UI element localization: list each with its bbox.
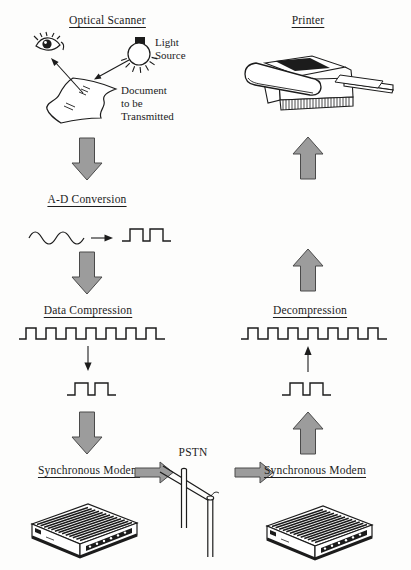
synchronous-modem-right-label: Synchronous Modem xyxy=(255,463,375,477)
fax-transmission-diagram: Optical Scanner Light Source Docu xyxy=(0,0,411,570)
square-wave-icon xyxy=(121,226,172,243)
light-beam-arrow-icon xyxy=(94,60,129,80)
block-arrow-down-icon xyxy=(71,137,103,181)
telephone-pole-icon xyxy=(155,460,235,565)
ad-conversion-label: A-D Conversion xyxy=(27,192,147,206)
decompression-label: Decompression xyxy=(250,303,370,317)
printer-icon xyxy=(243,50,398,114)
block-arrow-up-icon xyxy=(292,411,324,455)
light-source-label: Light Source xyxy=(155,36,199,62)
block-arrow-down-icon xyxy=(71,411,103,455)
block-arrow-down-icon xyxy=(71,251,103,295)
pstn-label: PSTN xyxy=(163,445,223,459)
data-compression-label: Data Compression xyxy=(28,303,148,317)
square-wave-long-icon xyxy=(18,325,166,341)
document-icon xyxy=(47,78,116,123)
synchronous-modem-left-label: Synchronous Modem xyxy=(29,463,149,477)
block-arrow-up-icon xyxy=(292,136,324,180)
square-wave-icon xyxy=(66,380,117,397)
sine-wave-icon xyxy=(27,225,85,251)
thin-down-arrow-icon xyxy=(82,345,94,372)
modem-icon xyxy=(259,499,381,563)
square-wave-long-icon xyxy=(240,325,388,341)
light-bulb-icon xyxy=(121,37,157,73)
modem-icon xyxy=(24,497,146,561)
printer-label: Printer xyxy=(248,13,368,27)
square-wave-icon xyxy=(281,380,332,397)
thin-right-arrow-icon xyxy=(90,232,114,244)
thin-up-arrow-icon xyxy=(302,345,314,373)
block-arrow-up-icon xyxy=(292,248,324,292)
optical-scanner-label: Optical Scanner xyxy=(47,13,168,27)
eye-icon xyxy=(34,32,64,50)
document-label: Document to be Transmitted xyxy=(121,84,185,123)
